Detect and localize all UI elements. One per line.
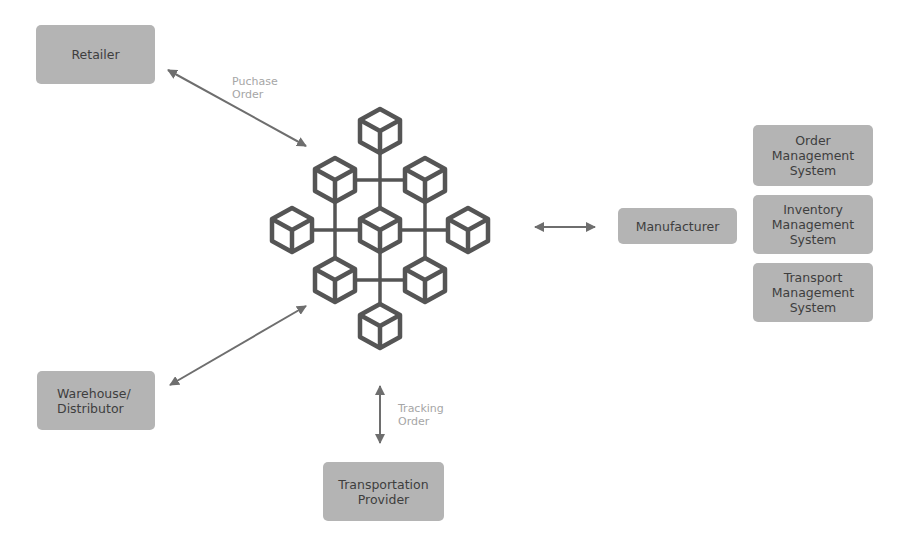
node-label: Provider [338,492,428,507]
block-cube-icon-middle-left [272,208,312,252]
node-label: System [772,232,854,247]
edge-warehouse-chain [170,306,306,385]
block-cube-icon-lower-right [405,258,445,302]
node-label: Retailer [71,47,119,62]
node-manufacturer: Manufacturer [618,208,737,244]
node-label: Management [772,217,854,232]
node-transportation-provider: Transportation Provider [323,462,444,521]
edge-label-line: Puchase [232,75,278,88]
node-label: Manufacturer [636,219,720,234]
node-label: System [772,163,854,178]
block-cube-icon-center [360,208,400,252]
block-cube-icon-bottom [360,304,400,348]
node-retailer: Retailer [36,25,155,84]
node-label: Transport [772,270,854,285]
node-label: System [772,300,854,315]
node-label: Inventory [772,202,854,217]
node-label: Transportation [338,477,428,492]
edge-label-purchase-order: Puchase Order [232,75,278,101]
edge-label-line: Order [398,415,429,428]
node-warehouse-distributor: Warehouse/ Distributor [37,371,155,430]
edge-label-tracking-order: Tracking Order [398,402,444,428]
node-order-management-system: Order Management System [753,125,873,186]
block-cube-icon-middle-right [448,208,488,252]
node-inventory-management-system: Inventory Management System [753,195,873,254]
edge-label-line: Tracking [398,402,444,415]
block-cube-icon-lower-left [315,258,355,302]
node-label: Management [772,148,854,163]
block-cube-icon-upper-left [315,158,355,202]
node-transport-management-system: Transport Management System [753,263,873,322]
node-label: Order [772,133,854,148]
node-label: Warehouse/ [57,386,131,401]
block-cube-icon-top [360,109,400,153]
edge-label-line: Order [232,88,263,101]
block-cube-icon-upper-right [405,158,445,202]
node-label: Distributor [57,401,131,416]
node-label: Management [772,285,854,300]
